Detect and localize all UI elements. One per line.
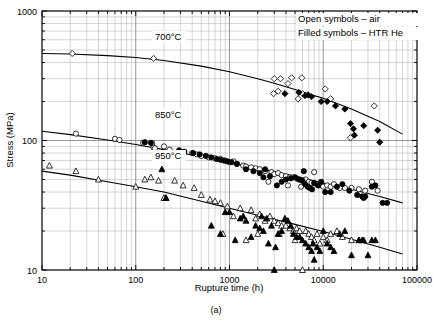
creep-rupture-chart: 10100100010000100000 101001000 700°C850°… — [0, 0, 433, 327]
data-point-open-circle — [312, 170, 317, 175]
data-point-filled-circle — [257, 171, 262, 176]
data-point-filled-circle — [340, 182, 345, 187]
x-tick-label: 10 — [37, 275, 47, 285]
data-point-filled-circle — [234, 161, 239, 166]
data-point-filled-circle — [251, 169, 256, 174]
annotation-950C: 950°C — [155, 150, 182, 161]
data-point-filled-circle — [197, 152, 202, 157]
data-point-filled-circle — [334, 184, 339, 189]
x-tick-label: 100000 — [402, 275, 432, 285]
data-point-filled-circle — [261, 175, 266, 180]
data-point-open-circle — [363, 188, 368, 193]
y-axis-label: Stress (MPa) — [4, 112, 15, 167]
data-point-filled-circle — [319, 179, 324, 184]
data-point-open-circle — [356, 187, 361, 192]
data-point-filled-circle — [328, 189, 333, 194]
data-point-filled-circle — [263, 167, 268, 172]
data-point-filled-circle — [274, 183, 279, 188]
data-point-filled-circle — [385, 200, 390, 205]
data-point-open-circle — [117, 137, 122, 142]
figure-caption: (a) — [211, 305, 222, 315]
data-point-filled-circle — [347, 188, 352, 193]
data-point-filled-circle — [309, 187, 314, 192]
data-point-filled-circle — [323, 189, 328, 194]
y-tick-label: 1000 — [17, 7, 37, 17]
data-point-filled-circle — [203, 153, 208, 158]
legend-filled-symbols: Filled symbols – HTR He — [298, 27, 403, 38]
data-point-open-circle — [73, 131, 78, 136]
data-point-filled-circle — [301, 169, 306, 174]
data-point-filled-circle — [229, 160, 234, 165]
data-point-filled-circle — [191, 150, 196, 155]
data-point-open-circle — [161, 144, 166, 149]
annotation-700C: 700°C — [155, 31, 182, 42]
x-axis-label: Rupture time (h) — [195, 282, 264, 293]
data-point-filled-circle — [363, 194, 368, 199]
data-point-filled-circle — [243, 167, 248, 172]
annotation-850C: 850°C — [155, 109, 182, 120]
data-point-filled-circle — [267, 174, 272, 179]
data-point-filled-circle — [283, 177, 288, 182]
data-point-open-circle — [266, 179, 271, 184]
y-tick-label: 100 — [22, 136, 37, 146]
data-point-filled-circle — [142, 140, 147, 145]
data-point-filled-circle — [148, 140, 153, 145]
y-tick-label: 10 — [27, 266, 37, 276]
data-point-filled-circle — [373, 183, 378, 188]
data-point-filled-circle — [209, 155, 214, 160]
x-tick-label: 100 — [128, 275, 143, 285]
data-point-filled-circle — [355, 192, 360, 197]
x-tick-label: 10000 — [311, 275, 336, 285]
data-point-open-circle — [285, 183, 290, 188]
legend-open-symbols: Open symbols – air — [298, 13, 380, 24]
data-point-open-circle — [375, 188, 380, 193]
